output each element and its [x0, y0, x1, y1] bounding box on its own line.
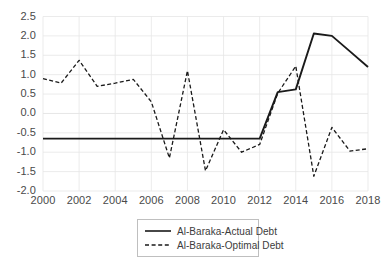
series-line-optimal-debt — [43, 60, 368, 176]
horizontal-gridlines — [43, 17, 368, 192]
legend-item-optimal: Al-Baraka-Optimal Debt — [145, 238, 251, 252]
vertical-gridlines — [43, 17, 368, 192]
y-tick-label: 1.0 — [0, 68, 36, 80]
x-tick-label: 2018 — [346, 194, 390, 206]
y-tick-label: -1.5 — [0, 165, 36, 177]
y-tick-label: 1.5 — [0, 48, 36, 60]
legend-item-actual: Al-Baraka-Actual Debt — [145, 224, 251, 238]
y-tick-label: -1.0 — [0, 145, 36, 157]
line-chart: 2.52.01.51.00.50.0-0.5-1.0-1.5-2.0 20002… — [0, 0, 392, 261]
y-tick-label: 0.5 — [0, 87, 36, 99]
legend-swatch-dashed — [145, 240, 171, 250]
y-tick-label: 2.5 — [0, 10, 36, 22]
legend-label-optimal: Al-Baraka-Optimal Debt — [177, 240, 284, 251]
y-tick-label: -0.5 — [0, 126, 36, 138]
legend-swatch-solid — [145, 226, 171, 236]
series-line-actual-debt — [43, 34, 368, 139]
y-tick-label: 2.0 — [0, 29, 36, 41]
y-tick-label: 0.0 — [0, 106, 36, 118]
legend-label-actual: Al-Baraka-Actual Debt — [177, 226, 277, 237]
legend: Al-Baraka-Actual Debt Al-Baraka-Optimal … — [137, 219, 259, 257]
